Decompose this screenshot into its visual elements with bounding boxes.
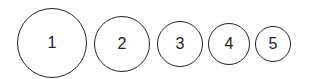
circle-3: 3: [157, 21, 203, 67]
circle-label: 4: [225, 35, 234, 53]
circle-label: 3: [176, 35, 185, 53]
circle-5: 5: [255, 26, 291, 62]
circle-1: 1: [17, 8, 87, 78]
circle-label: 5: [269, 35, 278, 53]
circle-label: 1: [48, 34, 57, 52]
circle-2: 2: [94, 16, 150, 72]
circle-diagram: 1 2 3 4 5: [0, 0, 310, 79]
circle-label: 2: [118, 35, 127, 53]
circle-4: 4: [208, 23, 250, 65]
